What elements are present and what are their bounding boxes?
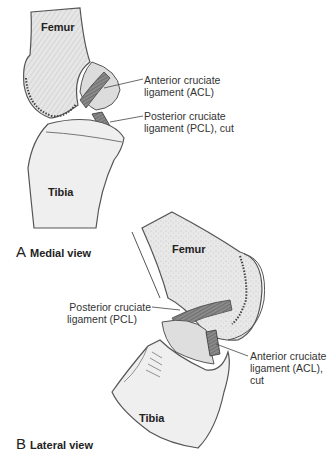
femur-b xyxy=(142,212,262,340)
femur-label-a: Femur xyxy=(41,21,75,33)
panel-a-caption: AMedial view xyxy=(16,243,91,260)
panel-a-title: Medial view xyxy=(30,247,91,259)
panel-b-letter: B xyxy=(16,435,26,452)
panel-a-letter: A xyxy=(16,243,26,260)
panel-a-drawing xyxy=(24,8,143,228)
callout-pcl-a: Posterior cruciate ligament (PCL), cut xyxy=(144,110,234,134)
callout-pcl-b-line2: ligament (PCL) xyxy=(67,313,151,325)
femur-label-b: Femur xyxy=(172,243,206,255)
callout-acl-a-line2: ligament (ACL) xyxy=(144,86,220,98)
callout-acl-a-line1: Anterior cruciate xyxy=(144,74,220,86)
callout-acl-b-line2: ligament (ACL), xyxy=(250,362,326,374)
tibia-label-a: Tibia xyxy=(48,186,73,198)
callout-acl-b-line3: cut xyxy=(250,374,326,386)
knee-illustration xyxy=(0,0,335,457)
callout-pcl-b-line1: Posterior cruciate xyxy=(67,301,151,313)
callout-pcl-a-line2: ligament (PCL), cut xyxy=(144,122,234,134)
panel-b-caption: BLateral view xyxy=(16,435,93,452)
panel-b-title: Lateral view xyxy=(30,439,93,451)
tibia-a xyxy=(28,120,124,229)
callout-acl-b-line1: Anterior cruciate xyxy=(250,350,326,362)
tibia-label-b: Tibia xyxy=(139,412,164,424)
callout-pcl-b: Posterior cruciate ligament (PCL) xyxy=(67,301,151,325)
callout-acl-b: Anterior cruciate ligament (ACL), cut xyxy=(250,350,326,386)
callout-acl-a: Anterior cruciate ligament (ACL) xyxy=(144,74,220,98)
callout-pcl-a-line1: Posterior cruciate xyxy=(144,110,234,122)
